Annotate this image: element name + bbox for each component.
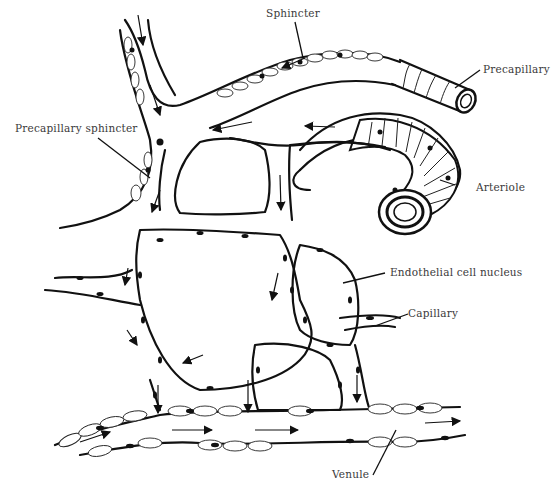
label-endothelial-cell-nucleus: Endothelial cell nucleus [390, 266, 522, 278]
label-venule: Venule [332, 468, 369, 480]
capillary-bed-diagram [0, 0, 559, 494]
capillary-loop-upper [175, 139, 269, 215]
arteriole-vessel [300, 113, 460, 234]
label-precapillary-sphincter: Precapillary sphincter [15, 122, 138, 134]
label-precapillary: Precapillary [483, 63, 550, 75]
precapillary-vessel [392, 60, 479, 116]
label-sphincter: Sphincter [266, 7, 320, 19]
label-arteriole: Arteriole [476, 181, 525, 193]
label-capillary: Capillary [408, 307, 458, 319]
capillary-network [45, 229, 400, 410]
venule-vessel [55, 403, 465, 458]
capillary-loop-upper-right [289, 142, 385, 220]
